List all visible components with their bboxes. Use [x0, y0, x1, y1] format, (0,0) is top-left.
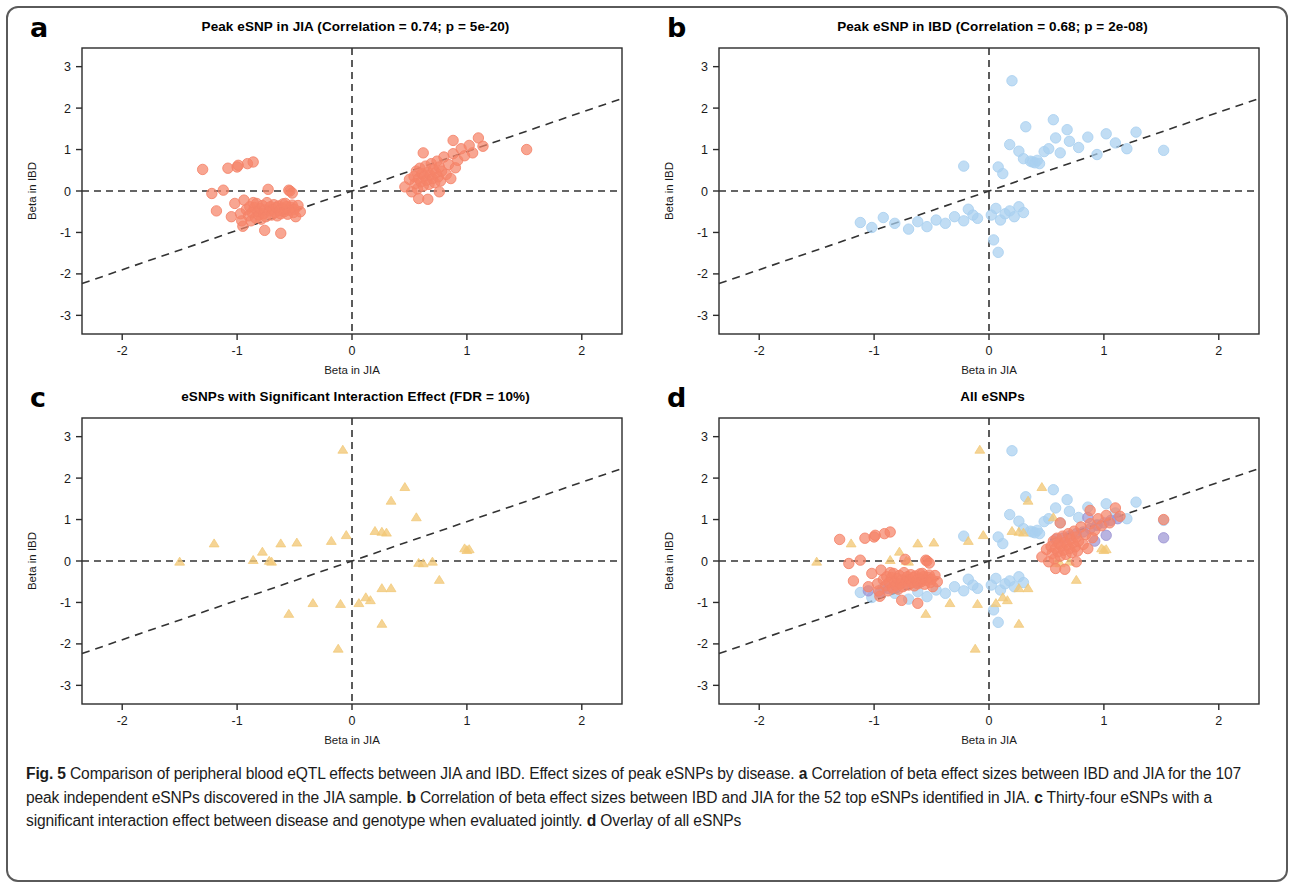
caption-b-text: Correlation of beta effect sizes between…	[416, 789, 1034, 806]
panel-c-plot: -2-10123210-1-2-3Beta in JIABeta in IBD	[10, 404, 647, 754]
svg-text:-2: -2	[754, 344, 765, 358]
svg-text:3: 3	[64, 60, 71, 74]
svg-text:3: 3	[64, 430, 71, 444]
svg-text:0: 0	[986, 344, 993, 358]
svg-text:0: 0	[701, 555, 708, 569]
svg-text:-2: -2	[117, 714, 128, 728]
caption-d-label: d	[587, 812, 596, 829]
panel-c-title: eSNPs with Significant Interaction Effec…	[70, 389, 641, 404]
svg-text:-2: -2	[697, 637, 708, 651]
svg-text:Beta in IBD: Beta in IBD	[663, 532, 675, 590]
caption-main-text: Comparison of peripheral blood eQTL effe…	[66, 765, 799, 782]
svg-text:-3: -3	[60, 309, 71, 323]
svg-text:Beta in JIA: Beta in JIA	[961, 734, 1017, 746]
svg-text:-1: -1	[697, 226, 708, 240]
svg-text:-2: -2	[117, 344, 128, 358]
svg-text:3: 3	[701, 60, 708, 74]
svg-text:1: 1	[64, 513, 71, 527]
svg-text:1: 1	[463, 344, 470, 358]
svg-text:1: 1	[64, 143, 71, 157]
svg-text:0: 0	[986, 714, 993, 728]
panel-d: d All eSNPs -2-10123210-1-2-3Beta in JIA…	[647, 380, 1284, 750]
svg-text:Beta in IBD: Beta in IBD	[26, 162, 38, 220]
svg-text:-1: -1	[232, 714, 243, 728]
svg-text:2: 2	[64, 472, 71, 486]
panel-b-plot: -2-10123210-1-2-3Beta in JIABeta in IBD	[647, 34, 1284, 384]
svg-text:0: 0	[701, 185, 708, 199]
svg-text:-3: -3	[697, 309, 708, 323]
caption-a-label: a	[799, 765, 808, 782]
svg-text:-2: -2	[697, 267, 708, 281]
svg-text:2: 2	[578, 714, 585, 728]
figure-caption: Fig. 5 Comparison of peripheral blood eQ…	[26, 762, 1268, 833]
svg-text:1: 1	[701, 513, 708, 527]
svg-text:0: 0	[64, 185, 71, 199]
svg-text:-2: -2	[754, 714, 765, 728]
panel-b: b Peak eSNP in IBD (Correlation = 0.68; …	[647, 10, 1284, 380]
svg-text:Beta in IBD: Beta in IBD	[663, 162, 675, 220]
panel-b-title: Peak eSNP in IBD (Correlation = 0.68; p …	[707, 19, 1278, 34]
svg-text:-3: -3	[697, 679, 708, 693]
svg-text:2: 2	[701, 102, 708, 116]
svg-text:2: 2	[1215, 714, 1222, 728]
panel-d-plot: -2-10123210-1-2-3Beta in JIABeta in IBD	[647, 404, 1284, 754]
svg-text:2: 2	[1215, 344, 1222, 358]
panel-a-plot: -2-10123210-1-2-3Beta in JIABeta in IBD	[10, 34, 647, 384]
svg-text:1: 1	[463, 714, 470, 728]
svg-text:2: 2	[701, 472, 708, 486]
svg-text:-2: -2	[60, 267, 71, 281]
svg-text:Beta in JIA: Beta in JIA	[324, 364, 380, 376]
svg-text:1: 1	[701, 143, 708, 157]
svg-text:0: 0	[349, 344, 356, 358]
svg-text:-1: -1	[60, 596, 71, 610]
svg-text:2: 2	[64, 102, 71, 116]
svg-text:-1: -1	[697, 596, 708, 610]
caption-b-label: b	[406, 789, 415, 806]
svg-text:-3: -3	[60, 679, 71, 693]
svg-text:1: 1	[1100, 344, 1107, 358]
panel-d-title: All eSNPs	[707, 389, 1278, 404]
caption-figure-label: Fig. 5	[26, 765, 66, 782]
svg-text:3: 3	[701, 430, 708, 444]
svg-text:0: 0	[64, 555, 71, 569]
svg-text:2: 2	[578, 344, 585, 358]
svg-text:Beta in JIA: Beta in JIA	[324, 734, 380, 746]
svg-text:Beta in IBD: Beta in IBD	[26, 532, 38, 590]
svg-text:-2: -2	[60, 637, 71, 651]
figure-page: a Peak eSNP in JIA (Correlation = 0.74; …	[0, 0, 1294, 889]
panel-c: c eSNPs with Significant Interaction Eff…	[10, 380, 647, 750]
svg-text:-1: -1	[869, 714, 880, 728]
svg-text:-1: -1	[869, 344, 880, 358]
figure-panel-grid: a Peak eSNP in JIA (Correlation = 0.74; …	[10, 10, 1284, 750]
svg-text:0: 0	[349, 714, 356, 728]
svg-text:-1: -1	[60, 226, 71, 240]
caption-d-text: Overlay of all eSNPs	[596, 812, 741, 829]
caption-c-label: c	[1034, 789, 1043, 806]
panel-a: a Peak eSNP in JIA (Correlation = 0.74; …	[10, 10, 647, 380]
svg-text:Beta in JIA: Beta in JIA	[961, 364, 1017, 376]
svg-text:1: 1	[1100, 714, 1107, 728]
panel-a-title: Peak eSNP in JIA (Correlation = 0.74; p …	[70, 19, 641, 34]
svg-text:-1: -1	[232, 344, 243, 358]
